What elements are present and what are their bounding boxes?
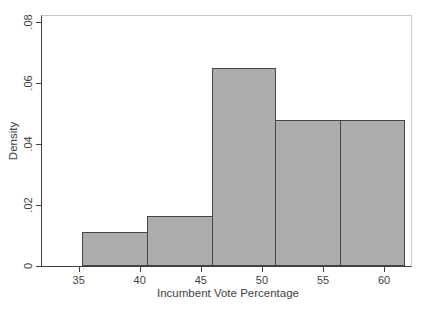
x-axis-tick xyxy=(384,267,385,272)
x-tick-label: 45 xyxy=(195,275,207,286)
y-axis-tick xyxy=(36,22,41,23)
x-axis-tick xyxy=(140,267,141,272)
y-tick-label: .06 xyxy=(23,75,34,90)
x-axis-tick xyxy=(323,267,324,272)
y-axis-tick xyxy=(36,144,41,145)
y-tick-label: 0 xyxy=(23,263,34,269)
x-axis-tick xyxy=(262,267,263,272)
y-tick-label: .02 xyxy=(23,197,34,212)
x-tick-label: 35 xyxy=(73,275,85,286)
y-axis-tick xyxy=(36,266,41,267)
y-tick-label: .08 xyxy=(23,14,34,29)
histogram-bar xyxy=(275,120,341,266)
histogram-bar xyxy=(82,232,148,266)
x-tick-label: 50 xyxy=(256,275,268,286)
histogram-bar xyxy=(340,120,405,266)
x-tick-label: 55 xyxy=(317,275,329,286)
plot-area xyxy=(41,15,412,267)
y-axis-title: Density xyxy=(7,122,19,160)
x-axis-tick xyxy=(79,267,80,272)
y-axis-tick xyxy=(36,205,41,206)
x-axis-tick xyxy=(201,267,202,272)
y-tick-label: .04 xyxy=(23,136,34,151)
x-tick-label: 40 xyxy=(134,275,146,286)
x-axis-title: Incumbent Vote Percentage xyxy=(157,287,299,299)
histogram-figure: 0.02.04.06.08354045505560 Density Incumb… xyxy=(0,0,423,309)
y-axis-tick xyxy=(36,83,41,84)
histogram-bar xyxy=(212,68,277,266)
histogram-bar xyxy=(147,216,213,266)
x-tick-label: 60 xyxy=(378,275,390,286)
